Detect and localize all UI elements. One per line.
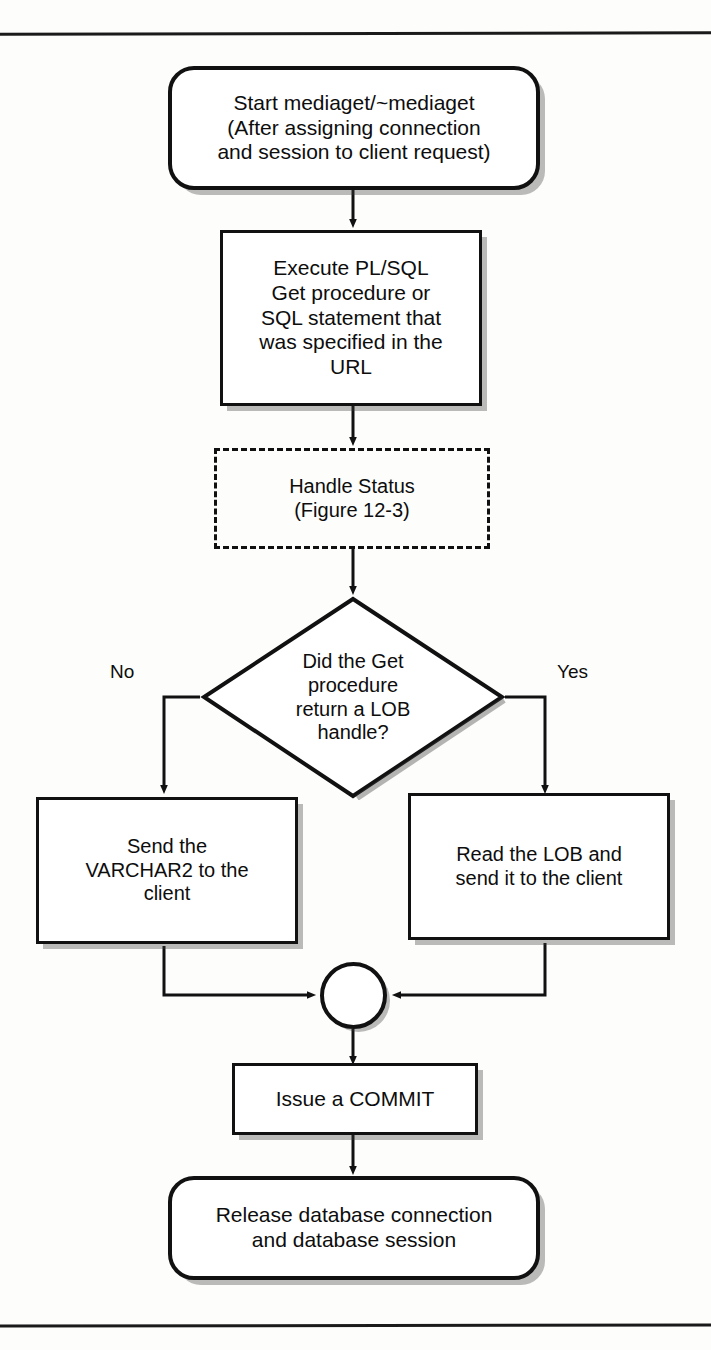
node-send-varchar2-label: Send the VARCHAR2 to the client	[79, 835, 254, 906]
node-decision-label: Did the Get procedure return a LOB handl…	[290, 650, 417, 744]
node-start-label: Start mediaget/~mediaget (After assignin…	[211, 91, 496, 165]
node-commit-label: Issue a COMMIT	[270, 1087, 441, 1112]
node-send-varchar2-process: Send the VARCHAR2 to the client	[36, 797, 298, 944]
edge-label-no: No	[110, 661, 134, 683]
book-page: Start mediaget/~mediaget (After assignin…	[0, 0, 711, 1350]
node-handle-status-label: Handle Status (Figure 12-3)	[283, 475, 421, 522]
node-commit-process: Issue a COMMIT	[232, 1063, 478, 1135]
edge-label-yes: Yes	[557, 661, 588, 683]
page-top-rule	[0, 31, 711, 35]
page-bottom-rule	[0, 1323, 711, 1327]
node-release-terminator: Release database connection and database…	[168, 1176, 540, 1280]
node-execute-process: Execute PL/SQL Get procedure or SQL stat…	[220, 230, 482, 406]
node-read-lob-process: Read the LOB and send it to the client	[408, 793, 670, 940]
node-decision-diamond: Did the Get procedure return a LOB handl…	[200, 595, 506, 800]
node-handle-status-subprocess: Handle Status (Figure 12-3)	[214, 448, 490, 549]
node-merge-connector	[320, 962, 387, 1029]
node-start-terminator: Start mediaget/~mediaget (After assignin…	[168, 66, 540, 190]
node-release-label: Release database connection and database…	[210, 1203, 499, 1253]
node-execute-label: Execute PL/SQL Get procedure or SQL stat…	[253, 256, 448, 380]
node-read-lob-label: Read the LOB and send it to the client	[450, 843, 629, 890]
